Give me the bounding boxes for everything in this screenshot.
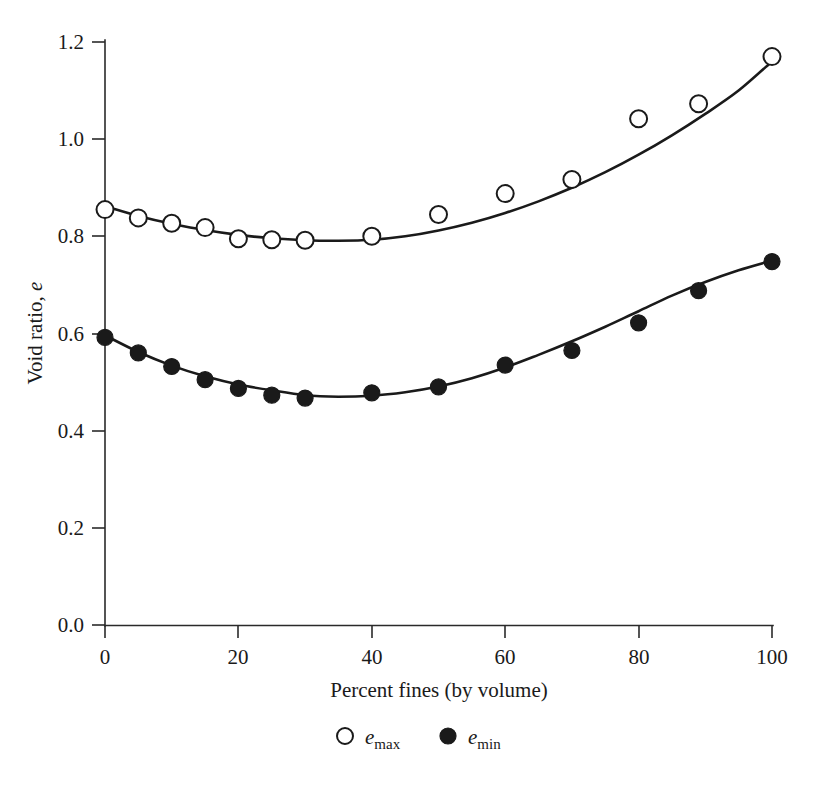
chart-legend: emax emin: [337, 725, 501, 752]
chart-canvas: 1.2 1.0 0.8 0.6 0.4 0.2 0.0 0 20 40 60 8…: [0, 0, 826, 787]
y-tick-label: 0.4: [58, 419, 85, 443]
emin-data-points: [97, 254, 780, 407]
y-tick-label: 1.2: [58, 30, 84, 54]
legend-label-emax: emax: [365, 725, 401, 752]
data-point-emin: [264, 387, 280, 403]
legend-label-emin: emin: [468, 725, 501, 752]
y-tick-label: 0.0: [58, 613, 84, 637]
x-tick-label: 40: [362, 645, 383, 669]
data-point-emax: [230, 230, 247, 247]
data-point-emax: [97, 201, 114, 218]
svg-text:Void ratio, e: Void ratio, e: [23, 282, 47, 385]
x-tick-label: 20: [228, 645, 249, 669]
data-point-emax: [197, 219, 214, 236]
data-point-emax: [363, 228, 380, 245]
x-tick-label: 100: [756, 645, 788, 669]
data-point-emin: [130, 345, 146, 361]
data-point-emax: [563, 171, 580, 188]
data-point-emax: [630, 110, 647, 127]
data-point-emin: [497, 357, 513, 373]
data-point-emin: [97, 329, 113, 345]
x-tick-labels: 0 20 40 60 80 100: [100, 645, 788, 669]
x-tick-label: 80: [629, 645, 650, 669]
data-point-emax: [297, 232, 314, 249]
x-axis-title: Percent fines (by volume): [330, 678, 548, 702]
data-point-emin: [691, 283, 707, 299]
emax-data-points: [97, 48, 781, 249]
data-point-emax: [163, 215, 180, 232]
y-axis-title-base: Void ratio,: [23, 291, 47, 385]
data-point-emin: [564, 343, 580, 359]
legend-filled-circle-icon: [440, 728, 456, 744]
data-point-emin: [631, 315, 647, 331]
data-point-emax: [690, 95, 707, 112]
data-point-emin: [230, 380, 246, 396]
y-tick-label: 0.6: [58, 322, 84, 346]
data-point-emin: [197, 372, 213, 388]
data-point-emax: [263, 231, 280, 248]
data-point-emin: [764, 254, 780, 270]
x-tick-label: 0: [100, 645, 111, 669]
data-point-emin: [164, 359, 180, 375]
void-ratio-chart-figure: 1.2 1.0 0.8 0.6 0.4 0.2 0.0 0 20 40 60 8…: [0, 0, 826, 787]
data-point-emin: [431, 379, 447, 395]
data-point-emax: [130, 209, 147, 226]
y-tick-labels: 1.2 1.0 0.8 0.6 0.4 0.2 0.0: [58, 30, 85, 637]
legend-open-circle-icon: [337, 728, 353, 744]
x-axis-ticks: [105, 625, 772, 638]
x-tick-label: 60: [495, 645, 516, 669]
y-tick-label: 1.0: [58, 127, 84, 151]
data-point-emax: [764, 48, 781, 65]
data-point-emin: [297, 390, 313, 406]
y-tick-label: 0.8: [58, 224, 84, 248]
y-axis-title-italic-e: e: [23, 282, 47, 291]
y-axis-title: Void ratio, e: [23, 282, 47, 385]
data-point-emin: [364, 385, 380, 401]
data-point-emax: [497, 185, 514, 202]
y-tick-label: 0.2: [58, 516, 84, 540]
data-point-emax: [430, 206, 447, 223]
